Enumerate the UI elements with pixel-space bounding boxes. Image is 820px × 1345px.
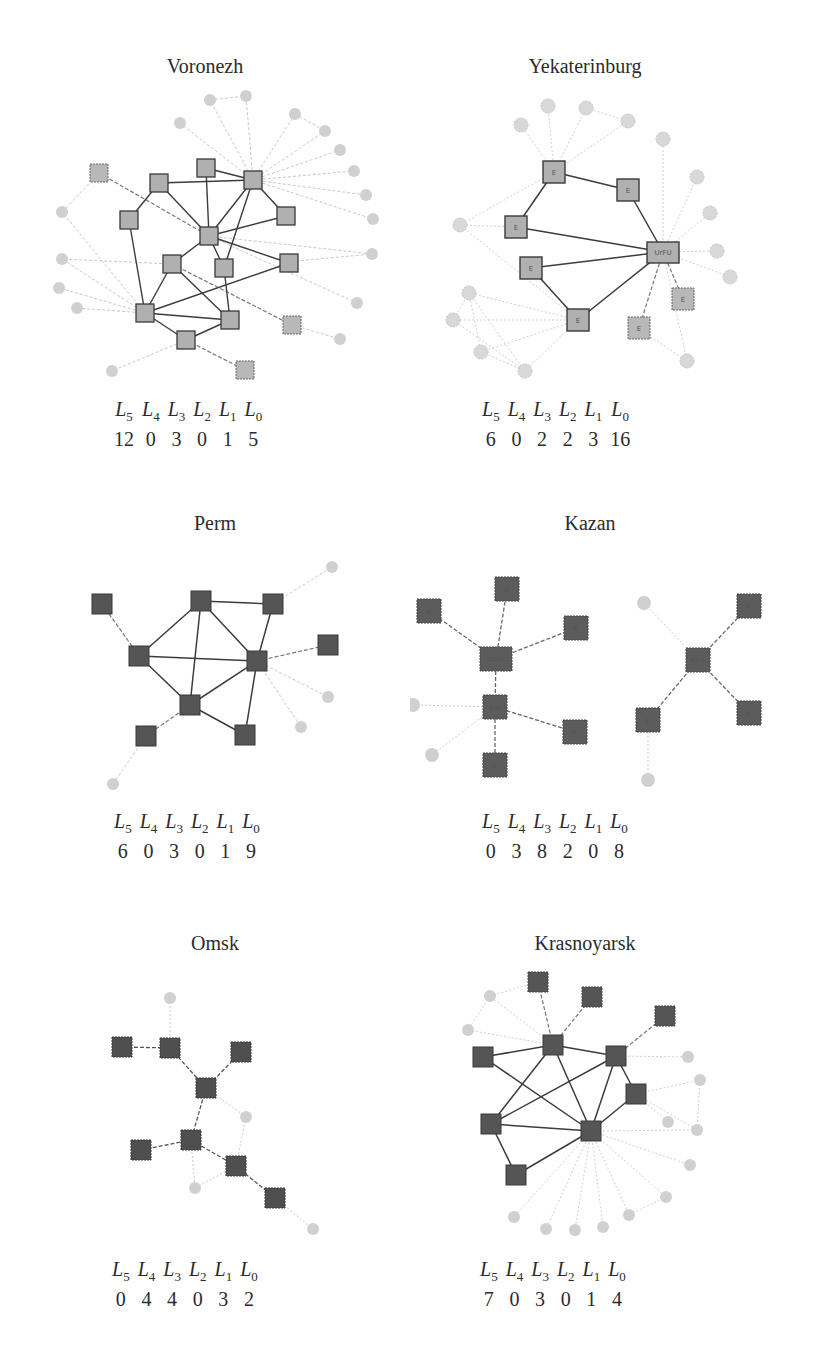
hub-label: UrFU (654, 249, 671, 257)
network-graph-yekaterinburg: E E E E E E E UrFU (410, 0, 820, 400)
node-label: E (681, 296, 685, 304)
node-label: K (574, 625, 579, 633)
count-l5: 0 (478, 840, 504, 862)
level-label: L2 (555, 810, 581, 840)
count-l2: 0 (187, 840, 213, 862)
hub-label: KAI (489, 704, 500, 712)
network-graph-omsk (0, 880, 410, 1280)
level-label: L5 (478, 398, 504, 428)
level-label: L0 (238, 810, 264, 840)
panel-yekaterinburg: Yekaterinburg (410, 0, 820, 445)
count-l1: 1 (579, 1288, 605, 1310)
level-label: L5 (110, 398, 138, 428)
count-l1: 3 (211, 1288, 237, 1310)
level-label: L0 (236, 1258, 262, 1288)
level-label: L0 (241, 398, 267, 428)
level-label: L5 (110, 810, 136, 840)
node-label: E (576, 317, 580, 325)
count-l4: 3 (504, 840, 530, 862)
count-l2: 0 (553, 1288, 579, 1310)
level-labels-row: L5 L4 L3 L2 L1 L0 (110, 398, 266, 428)
level-label: L3 (161, 810, 187, 840)
node-label: K (747, 603, 752, 611)
network-graph-kazan: K K K K K K K K KTMY KAI KFU (410, 440, 820, 840)
level-label: L4 (136, 810, 162, 840)
level-label: L5 (476, 1258, 502, 1288)
node-label: K (427, 608, 432, 616)
level-label: L5 (478, 810, 504, 840)
node-label: E (626, 187, 630, 195)
level-label: L4 (504, 810, 530, 840)
level-label: L2 (555, 398, 581, 428)
count-l3: 3 (527, 1288, 553, 1310)
count-l5: 7 (476, 1288, 502, 1310)
level-counts-table: L5 L4 L3 L2 L1 L0 0 3 8 2 0 8 (478, 810, 632, 862)
level-counts-table: L5 L4 L3 L2 L1 L0 0 4 4 0 3 2 (108, 1258, 262, 1310)
level-label: L0 (606, 810, 632, 840)
panel-kazan: Kazan K K K K K (410, 440, 820, 885)
level-label: L1 (213, 810, 239, 840)
level-label: L4 (504, 398, 530, 428)
level-label: L2 (189, 398, 215, 428)
count-l5: 6 (110, 840, 136, 862)
level-counts-table: L5 L4 L3 L2 L1 L0 7 0 3 0 1 4 (476, 1258, 630, 1310)
count-l1: 0 (581, 840, 607, 862)
level-label: L4 (138, 398, 164, 428)
level-label: L0 (604, 1258, 630, 1288)
count-l2: 0 (185, 1288, 211, 1310)
count-l4: 0 (502, 1288, 528, 1310)
level-label: L3 (529, 810, 555, 840)
network-graph-krasnoyarsk (410, 880, 820, 1280)
level-labels-row: L5 L4 L3 L2 L1 L0 (108, 1258, 262, 1288)
count-l0: 9 (238, 840, 264, 862)
level-label: L3 (164, 398, 190, 428)
level-counts-table: L5 L4 L3 L2 L1 L0 6 0 3 0 1 9 (110, 810, 264, 862)
count-l3: 4 (159, 1288, 185, 1310)
level-label: L1 (581, 398, 607, 428)
level-label: L2 (185, 1258, 211, 1288)
count-l0: 2 (236, 1288, 262, 1310)
panel-perm: Perm L5 (0, 440, 410, 885)
panel-voronezh: Voronezh (0, 0, 410, 445)
hub-label: KTMY (487, 656, 506, 664)
network-graph-voronezh (0, 0, 410, 400)
count-l1: 1 (213, 840, 239, 862)
level-label: L1 (215, 398, 241, 428)
level-label: L4 (502, 1258, 528, 1288)
level-label: L1 (211, 1258, 237, 1288)
count-l4: 4 (134, 1288, 160, 1310)
level-label: L5 (108, 1258, 134, 1288)
level-labels-row: L5 L4 L3 L2 L1 L0 (478, 810, 632, 840)
panel-omsk: Omsk L5 L4 L3 L2 (0, 880, 410, 1325)
node-label: E (514, 224, 518, 232)
level-label: L0 (606, 398, 634, 428)
level-label: L1 (581, 810, 607, 840)
node-label: K (505, 586, 510, 594)
level-label: L1 (579, 1258, 605, 1288)
count-l2: 2 (555, 840, 581, 862)
level-labels-row: L5 L4 L3 L2 L1 L0 (478, 398, 634, 428)
node-label: K (646, 717, 651, 725)
level-label: L2 (553, 1258, 579, 1288)
level-label: L3 (527, 1258, 553, 1288)
count-l5: 0 (108, 1288, 134, 1310)
level-label: L3 (159, 1258, 185, 1288)
level-counts-row: 0 3 8 2 0 8 (478, 840, 632, 862)
level-counts-row: 0 4 4 0 3 2 (108, 1288, 262, 1310)
count-l4: 0 (136, 840, 162, 862)
count-l0: 8 (606, 840, 632, 862)
hub-label: KFU (691, 657, 705, 665)
level-labels-row: L5 L4 L3 L2 L1 L0 (110, 810, 264, 840)
panel-krasnoyarsk: Krasnoyarsk (410, 880, 820, 1325)
node-label: K (573, 729, 578, 737)
level-counts-row: 6 0 3 0 1 9 (110, 840, 264, 862)
node-label: E (552, 169, 556, 177)
node-label: E (529, 265, 533, 273)
count-l0: 4 (604, 1288, 630, 1310)
node-label: K (493, 762, 498, 770)
node-label: E (637, 325, 641, 333)
level-counts-row: 7 0 3 0 1 4 (476, 1288, 630, 1310)
count-l3: 3 (161, 840, 187, 862)
level-label: L2 (187, 810, 213, 840)
count-l3: 8 (529, 840, 555, 862)
